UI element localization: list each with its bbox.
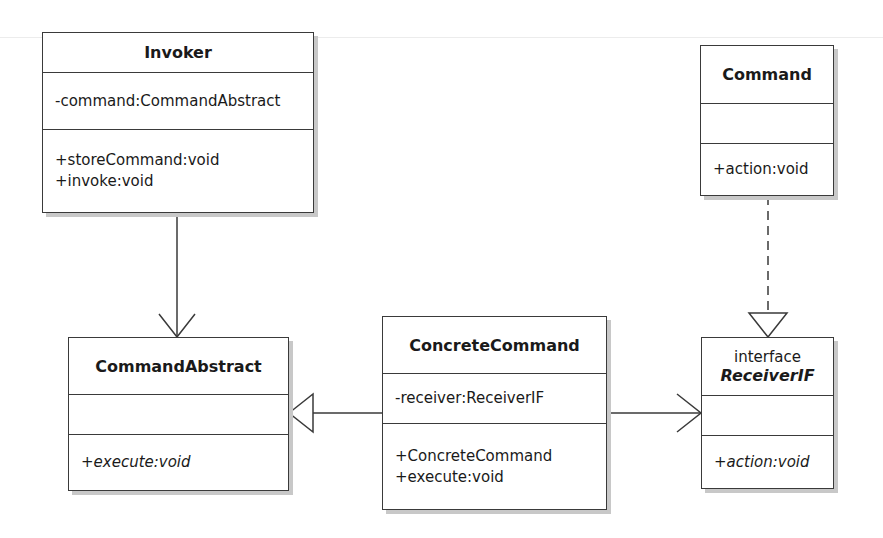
attributes-compartment: -receiver:ReceiverIF xyxy=(383,373,606,423)
class-name: ReceiverIF xyxy=(720,366,814,385)
class-name-compartment: CommandAbstract xyxy=(69,338,288,394)
operation: +ConcreteCommand xyxy=(383,446,606,467)
class-name: Command xyxy=(722,65,812,84)
association-concretecommand-to-receiverif xyxy=(606,394,701,432)
generalization-concretecommand-to-commandabstract xyxy=(289,394,382,432)
class-name-compartment: Command xyxy=(701,46,833,103)
class-name: ConcreteCommand xyxy=(409,336,580,355)
operation: +invoke:void xyxy=(43,171,313,192)
association-invoker-to-commandabstract xyxy=(159,213,195,337)
operations-compartment: +ConcreteCommand +execute:void xyxy=(383,423,606,509)
stereotype-label: interface xyxy=(734,348,801,366)
class-command[interactable]: Command +action:void xyxy=(700,45,834,196)
operations-compartment: +action:void xyxy=(701,143,833,195)
class-commandabstract[interactable]: CommandAbstract +execute:void xyxy=(68,337,289,491)
operation: +storeCommand:void xyxy=(43,150,313,171)
operation: +execute:void xyxy=(383,467,606,488)
realization-command-to-receiverif xyxy=(749,196,787,337)
class-concretecommand[interactable]: ConcreteCommand -receiver:ReceiverIF +Co… xyxy=(382,316,607,510)
class-name-compartment: ConcreteCommand xyxy=(383,317,606,373)
class-name: CommandAbstract xyxy=(95,357,262,376)
class-invoker[interactable]: Invoker -command:CommandAbstract +storeC… xyxy=(42,32,314,213)
attributes-compartment xyxy=(702,395,833,435)
attribute: -receiver:ReceiverIF xyxy=(383,388,606,409)
operations-compartment: +storeCommand:void +invoke:void xyxy=(43,129,313,212)
attribute: -command:CommandAbstract xyxy=(43,91,313,112)
abstract-operation: +action:void xyxy=(702,452,833,473)
abstract-operation: +execute:void xyxy=(69,452,288,473)
attributes-compartment xyxy=(69,394,288,434)
class-name: Invoker xyxy=(144,43,212,62)
operation: +action:void xyxy=(701,159,833,180)
attributes-compartment: -command:CommandAbstract xyxy=(43,72,313,129)
class-name-compartment: Invoker xyxy=(43,33,313,72)
class-name-compartment: interface ReceiverIF xyxy=(702,338,833,395)
operations-compartment: +action:void xyxy=(702,435,833,488)
attributes-compartment xyxy=(701,103,833,143)
class-receiverif[interactable]: interface ReceiverIF +action:void xyxy=(701,337,834,489)
operations-compartment: +execute:void xyxy=(69,434,288,490)
